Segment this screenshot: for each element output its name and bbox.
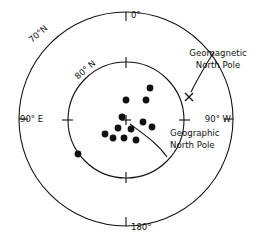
geomagnetic-leader-line (191, 52, 214, 92)
vgp-dot (147, 85, 154, 92)
vgp-dot (143, 97, 150, 104)
label-geomagnetic-line2: North Pole (196, 60, 241, 70)
label-geomagnetic-line1: Geomagnetic (189, 48, 247, 58)
vgp-dot (119, 114, 126, 121)
vgp-dot (149, 124, 156, 131)
label-180deg: 180° (131, 222, 151, 232)
label-geographic-line1: Geographic (170, 128, 220, 138)
label-geographic-line2: North Pole (170, 140, 215, 150)
vgp-dot (121, 135, 128, 142)
vgp-dot (128, 126, 135, 133)
label-0deg: 0° (131, 10, 141, 20)
vgp-dot (102, 131, 109, 138)
label-90e: 90° E (20, 114, 43, 124)
vgp-dot (140, 119, 147, 126)
polar-chart-svg: 70°N 80° N 0° 180° 90° E 90° W Geomagnet… (0, 0, 273, 246)
label-90w: 90° W (205, 114, 232, 124)
vgp-dot (123, 97, 130, 104)
vgp-dot (115, 125, 122, 132)
vgp-dot (110, 135, 117, 142)
polar-diagram-figure: 70°N 80° N 0° 180° 90° E 90° W Geomagnet… (0, 0, 273, 246)
vgp-dot-group (75, 85, 156, 158)
label-80n: 80° N (73, 58, 98, 81)
vgp-dot (75, 151, 82, 158)
label-70n: 70°N (27, 23, 50, 45)
geomagnetic-pole-marker (185, 93, 193, 101)
vgp-dot (133, 137, 140, 144)
